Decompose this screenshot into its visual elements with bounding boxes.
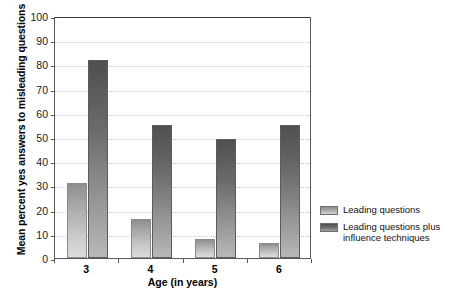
legend-label: Leading questions plus influence techniq… — [343, 221, 466, 244]
y-axis-tick-mark — [51, 115, 55, 116]
y-axis-tick-label: 80 — [2, 60, 48, 70]
x-axis-tick-label: 6 — [259, 263, 299, 275]
x-axis-tick-mark — [183, 259, 184, 263]
bar — [216, 139, 236, 258]
y-axis-tick-mark — [51, 66, 55, 67]
y-axis-tick-label: 50 — [2, 133, 48, 143]
x-axis-tick-label: 5 — [195, 263, 235, 275]
y-axis-tick-label: 90 — [2, 36, 48, 46]
bar — [195, 239, 215, 258]
y-axis-tick-label: 60 — [2, 109, 48, 119]
y-axis-tick-label: 0 — [2, 254, 48, 264]
bar — [280, 125, 300, 258]
y-axis-tick-label: 100 — [2, 12, 48, 22]
legend-swatch-leading-questions — [320, 206, 338, 215]
y-axis-tick-label: 10 — [2, 230, 48, 240]
x-axis-tick-mark — [311, 259, 312, 263]
plot-inner — [55, 18, 310, 258]
y-axis-tick-label: 40 — [2, 157, 48, 167]
x-axis-title: Age (in years) — [54, 276, 311, 288]
y-axis-tick-label: 30 — [2, 181, 48, 191]
legend-item[interactable]: Leading questions plus influence techniq… — [320, 221, 466, 244]
x-axis-tick-mark — [118, 259, 119, 263]
legend-item[interactable]: Leading questions — [320, 204, 466, 216]
bar — [131, 219, 151, 258]
chart-figure: Mean percent yes answers to misleading q… — [0, 0, 468, 293]
x-axis-tick-mark — [54, 259, 55, 263]
legend-label: Leading questions — [343, 204, 420, 216]
y-axis-tick-mark — [51, 187, 55, 188]
y-axis-tick-mark — [51, 18, 55, 19]
y-axis-tick-mark — [51, 236, 55, 237]
plot-area — [54, 17, 311, 259]
y-axis-tick-mark — [51, 91, 55, 92]
bar — [152, 125, 172, 258]
legend-swatch-influence-techniques — [320, 223, 338, 232]
chart-legend: Leading questions Leading questions plus… — [320, 204, 466, 249]
y-axis-tick-label: 20 — [2, 206, 48, 216]
y-axis-tick-mark — [51, 212, 55, 213]
y-axis-tick-mark — [51, 139, 55, 140]
x-axis-tick-label: 4 — [130, 263, 170, 275]
bar — [259, 243, 279, 258]
x-axis-tick-label: 3 — [66, 263, 106, 275]
x-axis-tick-mark — [247, 259, 248, 263]
y-axis-tick-mark — [51, 163, 55, 164]
bar — [67, 183, 87, 258]
gridline — [55, 42, 310, 43]
bar — [88, 60, 108, 258]
y-axis-tick-label: 70 — [2, 85, 48, 95]
y-axis-tick-mark — [51, 42, 55, 43]
